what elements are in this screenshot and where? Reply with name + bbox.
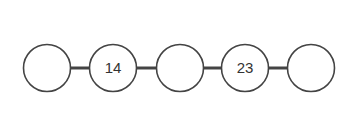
node-4: 23 xyxy=(222,45,269,92)
chain-diagram: 14 23 xyxy=(0,0,353,129)
node-5 xyxy=(288,45,335,92)
node-2: 14 xyxy=(90,45,137,92)
node-4-label: 23 xyxy=(237,59,254,76)
node-1 xyxy=(24,45,71,92)
node-2-label: 14 xyxy=(105,59,122,76)
node-3 xyxy=(157,45,204,92)
